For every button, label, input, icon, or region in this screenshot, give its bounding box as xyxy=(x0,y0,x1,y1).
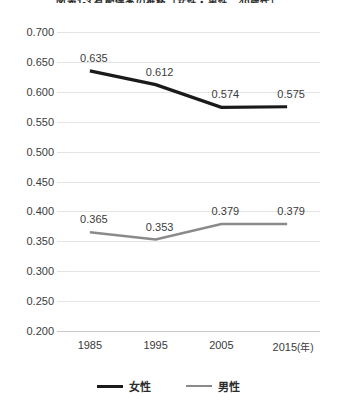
series-lines xyxy=(0,0,337,404)
line-chart: 図表1-3 有配偶率の推移（女性・男性、40歳代） 0.7000.6500.60… xyxy=(0,0,337,404)
data-label: 0.365 xyxy=(80,213,108,225)
legend-line-swatch-icon xyxy=(186,385,212,388)
data-label: 0.379 xyxy=(277,205,305,217)
data-label: 0.612 xyxy=(146,66,174,78)
data-label: 0.574 xyxy=(212,88,240,100)
series-line-female xyxy=(90,71,287,107)
data-label: 0.635 xyxy=(80,52,108,64)
chart-legend: 女性男性 xyxy=(0,378,337,394)
legend-item-male[interactable]: 男性 xyxy=(186,378,240,394)
data-label: 0.575 xyxy=(277,88,305,100)
legend-label: 男性 xyxy=(218,378,240,394)
legend-item-female[interactable]: 女性 xyxy=(97,378,151,394)
series-line-male xyxy=(90,224,287,240)
data-label: 0.353 xyxy=(146,221,174,233)
legend-label: 女性 xyxy=(129,378,151,394)
data-label: 0.379 xyxy=(212,205,240,217)
legend-line-swatch-icon xyxy=(97,385,123,388)
